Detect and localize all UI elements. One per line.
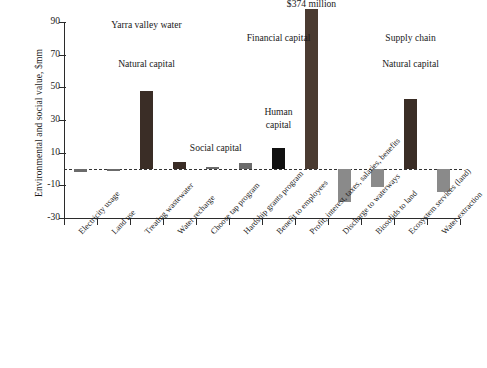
y-tick-label: 10 <box>51 147 61 157</box>
y-tick-label: 50 <box>51 81 61 91</box>
y-tick-label: -30 <box>47 212 60 222</box>
annotation-yarra-valley-water: Yarra valley water <box>47 19 247 30</box>
annotation-human-capital-line1: Human <box>179 106 379 117</box>
bar <box>173 162 186 169</box>
annotation-natural-capital-right: Natural capital <box>311 58 487 69</box>
y-tick-label: 30 <box>51 114 61 124</box>
y-axis-tick-labels: -30-101030507090 <box>30 22 60 218</box>
y-tick-mark <box>59 120 66 121</box>
x-tick-mark <box>64 219 65 225</box>
annotation-value-callout: $374 million <box>212 0 412 9</box>
annotation-natural-capital-left: Natural capital <box>47 58 247 69</box>
y-tick-mark <box>59 55 66 56</box>
y-tick-label: 70 <box>51 49 61 59</box>
y-tick-mark <box>59 185 66 186</box>
annotation-social-capital: Social capital <box>116 142 316 153</box>
bar <box>140 91 153 169</box>
y-tick-mark <box>59 22 66 23</box>
y-tick-label: -10 <box>47 179 60 189</box>
y-tick-mark <box>59 218 66 219</box>
annotation-human-capital-line2: capital <box>179 119 379 130</box>
annotation-supply-chain: Supply chain <box>311 32 487 43</box>
y-tick-mark <box>59 87 66 88</box>
bar <box>404 99 417 169</box>
bar <box>206 167 219 169</box>
bar <box>107 169 120 171</box>
bar <box>74 169 87 172</box>
bar <box>239 163 252 169</box>
y-tick-mark <box>59 153 66 154</box>
x-axis-category-labels: Electricity usageLand useTreating wastew… <box>0 226 471 368</box>
